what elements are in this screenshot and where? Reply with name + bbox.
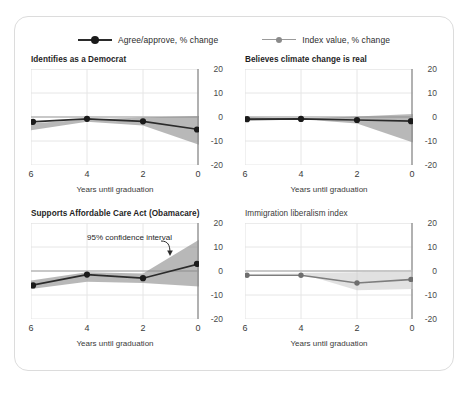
- legend-label-index-value: Index value, % change: [302, 35, 390, 45]
- data-point: [140, 275, 146, 281]
- xtick-2: 2: [136, 169, 150, 179]
- xtick-4: 4: [80, 169, 94, 179]
- xtick-2: 2: [136, 323, 150, 333]
- panel-immigration-liberalism-index: Immigration liberalism index: [237, 209, 445, 357]
- xtick-0: 0: [405, 323, 419, 333]
- xaxis-label: Years until graduation: [31, 185, 199, 194]
- confidence-band: [245, 270, 413, 290]
- ytick-10: 10: [415, 88, 437, 98]
- plot-area-immigration-liberalism-index: [245, 223, 413, 319]
- figure-card: Agree/approve, % change Index value, % c…: [14, 16, 454, 371]
- xtick-6: 6: [24, 169, 38, 179]
- ytick-0: 0: [201, 112, 223, 122]
- xtick-0: 0: [405, 169, 419, 179]
- data-point: [140, 118, 146, 124]
- ytick-10: 10: [201, 88, 223, 98]
- ytick-neg10: -10: [201, 136, 223, 146]
- panel-title-believes-climate-change-is-real: Believes climate change is real: [245, 55, 367, 64]
- ytick-0: 0: [415, 112, 437, 122]
- data-point: [298, 116, 304, 122]
- plot-svg: [245, 69, 413, 165]
- ytick-0: 0: [415, 266, 437, 276]
- xtick-6: 6: [238, 323, 252, 333]
- chart-legend: Agree/approve, % change Index value, % c…: [15, 29, 453, 51]
- xtick-6: 6: [238, 169, 252, 179]
- xaxis-label: Years until graduation: [31, 339, 199, 348]
- xtick-4: 4: [294, 323, 308, 333]
- data-point: [84, 116, 90, 122]
- data-point: [298, 273, 303, 278]
- data-point: [84, 272, 90, 278]
- xtick-2: 2: [350, 169, 364, 179]
- panel-title-immigration-liberalism-index: Immigration liberalism index: [245, 209, 348, 218]
- xtick-0: 0: [191, 169, 205, 179]
- panel-identifies-as-democrat: Identifies as a Democrat: [23, 55, 231, 203]
- panel-title-identifies-as-democrat: Identifies as a Democrat: [31, 55, 126, 64]
- data-point: [245, 273, 250, 278]
- panel-supports-affordable-care-act: Supports Affordable Care Act (Obamacare): [23, 209, 231, 357]
- plot-area-supports-affordable-care-act: 95% confidence interval: [31, 223, 199, 319]
- annotation-pointer-arrow-icon: [167, 251, 173, 257]
- panel-title-supports-affordable-care-act: Supports Affordable Care Act (Obamacare): [31, 209, 199, 218]
- xtick-2: 2: [350, 323, 364, 333]
- xtick-0: 0: [191, 323, 205, 333]
- legend-label-agree-approve: Agree/approve, % change: [118, 35, 218, 45]
- data-point: [354, 117, 360, 123]
- plot-svg: [31, 69, 199, 165]
- ytick-10: 10: [201, 242, 223, 252]
- ytick-20: 20: [415, 218, 437, 228]
- data-point: [354, 280, 359, 285]
- ytick-neg10: -10: [415, 290, 437, 300]
- xtick-6: 6: [24, 323, 38, 333]
- ytick-neg10: -10: [201, 290, 223, 300]
- ytick-20: 20: [201, 218, 223, 228]
- legend-marker-light-icon: [262, 35, 296, 45]
- xaxis-label: Years until graduation: [245, 185, 413, 194]
- ytick-20: 20: [415, 64, 437, 74]
- xtick-4: 4: [294, 169, 308, 179]
- legend-item-agree-approve: Agree/approve, % change: [78, 35, 218, 45]
- ytick-0: 0: [201, 266, 223, 276]
- plot-area-identifies-as-democrat: [31, 69, 199, 165]
- confidence-interval-annotation: 95% confidence interval: [87, 233, 172, 242]
- ytick-20: 20: [201, 64, 223, 74]
- plot-area-believes-climate-change-is-real: [245, 69, 413, 165]
- xaxis-label: Years until graduation: [245, 339, 413, 348]
- ytick-neg10: -10: [415, 136, 437, 146]
- panel-believes-climate-change-is-real: Believes climate change is real: [237, 55, 445, 203]
- xtick-4: 4: [80, 323, 94, 333]
- ytick-10: 10: [415, 242, 437, 252]
- legend-item-index-value: Index value, % change: [262, 35, 390, 45]
- legend-marker-dark-icon: [78, 35, 112, 45]
- plot-svg: [245, 223, 413, 319]
